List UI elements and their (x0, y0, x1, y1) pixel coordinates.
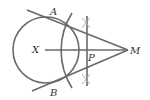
label-b: B (49, 87, 57, 98)
label-p: P (87, 52, 95, 63)
label-x: X (31, 44, 40, 55)
label-a: A (49, 6, 57, 17)
geometry-diagram: A B X P M (0, 0, 150, 100)
tangent-line-b (32, 50, 128, 91)
label-m: M (129, 45, 141, 56)
tangent-line-a (27, 10, 128, 50)
